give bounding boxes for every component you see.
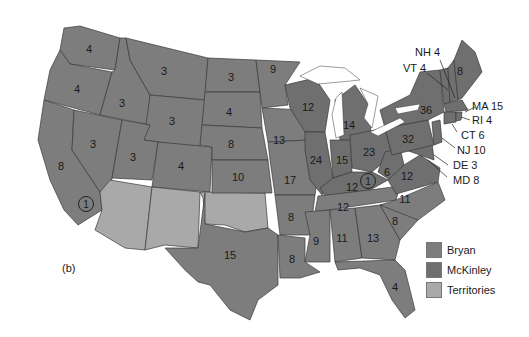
label-ky-split: 1 xyxy=(360,173,376,189)
label-pa: 32 xyxy=(402,134,414,145)
label-ut: 3 xyxy=(130,152,136,163)
label-ms: 9 xyxy=(313,236,319,247)
label-nv: 3 xyxy=(90,139,96,150)
territory-nm xyxy=(145,187,200,250)
lake-michigan xyxy=(332,92,344,138)
label-tx: 15 xyxy=(224,250,236,261)
label-me: 8 xyxy=(457,66,463,77)
callout-vt: VT 4 xyxy=(403,63,426,74)
legend-swatch-mckinley xyxy=(426,262,442,278)
callout-ct: CT 6 xyxy=(461,130,485,141)
label-ne: 8 xyxy=(228,139,234,150)
legend-item-mckinley: McKinley xyxy=(426,260,495,280)
callout-ma: MA 15 xyxy=(472,101,503,112)
label-or: 4 xyxy=(74,84,80,95)
legend-item-territories: Territories xyxy=(426,280,495,300)
label-oh: 23 xyxy=(363,147,375,158)
label-ny: 36 xyxy=(420,105,432,116)
legend-swatch-territories xyxy=(426,282,442,298)
legend-label-bryan: Bryan xyxy=(447,244,476,256)
label-mo: 17 xyxy=(284,175,296,186)
label-mn: 9 xyxy=(270,64,276,75)
legend-label-territories: Territories xyxy=(447,284,495,296)
panel-label: (b) xyxy=(62,262,75,274)
label-co: 4 xyxy=(178,161,184,172)
state-fl xyxy=(335,260,415,318)
label-mi: 14 xyxy=(343,120,355,131)
state-ri xyxy=(456,112,462,121)
state-nj xyxy=(432,120,442,145)
label-wy: 3 xyxy=(169,116,175,127)
label-in: 15 xyxy=(336,155,348,166)
territory-az xyxy=(95,180,152,250)
label-la: 8 xyxy=(289,254,295,265)
label-ks: 10 xyxy=(232,172,244,183)
callout-ri: RI 4 xyxy=(472,115,492,126)
label-wa: 4 xyxy=(86,44,92,55)
legend-swatch-bryan xyxy=(426,242,442,258)
label-ca: 8 xyxy=(58,161,64,172)
label-tn: 12 xyxy=(337,202,349,213)
label-nd: 3 xyxy=(228,72,234,83)
callout-md: MD 8 xyxy=(453,175,479,186)
label-mt: 3 xyxy=(161,66,167,77)
state-ct xyxy=(444,112,456,124)
label-il: 24 xyxy=(310,155,322,166)
label-va: 12 xyxy=(401,171,413,182)
label-ky: 12 xyxy=(346,182,358,193)
label-sc: 8 xyxy=(392,216,398,227)
legend-item-bryan: Bryan xyxy=(426,240,495,260)
label-fl: 4 xyxy=(392,282,398,293)
label-al: 11 xyxy=(336,233,347,244)
callout-de: DE 3 xyxy=(453,160,477,171)
callout-nj: NJ 10 xyxy=(457,145,486,156)
label-id: 3 xyxy=(119,98,125,109)
legend: Bryan McKinley Territories xyxy=(426,240,495,300)
legend-label-mckinley: McKinley xyxy=(447,264,492,276)
label-nc: 11 xyxy=(399,194,410,205)
label-ca-split: 1 xyxy=(78,196,94,212)
label-ar: 8 xyxy=(288,212,294,223)
label-ia: 13 xyxy=(273,135,285,146)
label-wv: 6 xyxy=(384,167,390,178)
label-ga: 13 xyxy=(367,233,379,244)
label-wi: 12 xyxy=(302,102,314,113)
label-sd: 4 xyxy=(226,107,232,118)
callout-nh: NH 4 xyxy=(415,47,440,58)
